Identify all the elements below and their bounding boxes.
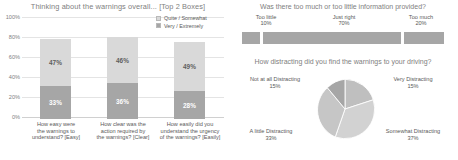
pie-value-text: 33%: [230, 135, 312, 142]
x-label-line2: action required by: [101, 128, 145, 134]
bar-segment-very-extremely: 36%: [107, 83, 138, 119]
bar-urgency-understanding[interactable]: 49% 28%: [174, 42, 205, 119]
pie-graphic: [314, 78, 376, 140]
x-label-line1: How easily did you: [167, 121, 214, 127]
y-tick-0: 0%: [0, 114, 20, 120]
stacked-bar-track: [242, 32, 444, 44]
segment-label-just-right: Just right 70%: [306, 14, 382, 27]
segment-label-too-much: Too much 20%: [390, 14, 452, 27]
slide-canvas: Thinking about the warnings overall... […: [0, 0, 458, 160]
pie-value-text: 37%: [370, 135, 456, 142]
pie-value-text: 15%: [234, 83, 316, 90]
pie-label-somewhat-distracting: Somewhat Distracting 37%: [370, 128, 456, 141]
information-amount-chart: Was there too much or too little informa…: [228, 0, 458, 56]
distraction-pie-chart: How distracting did you find the warning…: [228, 56, 458, 160]
x-label-urgency-understanding: How easily did you understand the urgenc…: [154, 121, 226, 141]
segment-label-too-little: Too little 10%: [236, 14, 296, 27]
y-tick-60: 60%: [0, 54, 20, 60]
y-tick-20: 20%: [0, 94, 20, 100]
bar-value-bottom: 33%: [49, 99, 62, 106]
pie-label-a-little-distracting: A little Distracting 33%: [230, 128, 312, 141]
page-title: Thinking about the warnings overall... […: [18, 2, 218, 11]
pie-value-text: 15%: [374, 83, 452, 90]
legend-label: Very / Extremely: [164, 23, 203, 29]
pie-label-text: Somewhat Distracting: [370, 128, 456, 135]
x-label-line3: of the warnings? [Easily]: [160, 134, 221, 140]
y-tick-80: 80%: [0, 34, 20, 40]
bar-segment-too-much[interactable]: [404, 32, 444, 44]
bar-action-clarity[interactable]: 46% 36%: [107, 37, 138, 119]
legend: Quite / Somewhat Very / Extremely: [156, 15, 228, 30]
x-axis-category-labels: How easy were the warnings to understand…: [22, 121, 224, 157]
x-label-line2: understand the urgency: [161, 128, 220, 134]
pie-label-text: Not at all Distracting: [234, 76, 316, 83]
bar-segment-very-extremely: 28%: [174, 91, 205, 119]
bar-segment-too-little[interactable]: [242, 32, 260, 44]
bar-segment-quite-somewhat: 46%: [107, 37, 138, 83]
stacked-column-chart: Thinking about the warnings overall... […: [0, 0, 228, 160]
x-label-easy-to-understand: How easy were the warnings to understand…: [22, 121, 90, 141]
bar-value-bottom: 28%: [183, 102, 196, 109]
legend-item-quite-somewhat[interactable]: Quite / Somewhat: [156, 15, 228, 21]
distraction-chart-title: How distracting did you find the warning…: [228, 58, 458, 65]
pie-label-text: A little Distracting: [230, 128, 312, 135]
bar-segment-very-extremely: 33%: [40, 86, 71, 119]
x-label-line3: the warnings? [Clear]: [97, 134, 150, 140]
x-label-action-clarity: How clear was the action required by the…: [89, 121, 157, 141]
legend-item-very-extremely[interactable]: Very / Extremely: [156, 23, 228, 29]
plot-area: 47% 33% 46% 36% 49% 28%: [22, 17, 224, 119]
pie-svg: [314, 78, 376, 140]
bar-easy-to-understand[interactable]: 47% 33%: [40, 39, 71, 119]
segment-label-text: Too much: [409, 14, 433, 20]
segment-value-text: 70%: [306, 20, 382, 26]
x-label-line2: the warnings to: [37, 128, 75, 134]
bar-value-bottom: 36%: [116, 98, 129, 105]
legend-swatch-icon: [156, 23, 161, 28]
y-axis-tick-labels: 100% 80% 60% 40% 20% 0%: [0, 14, 20, 118]
bar-segment-just-right[interactable]: [263, 32, 401, 44]
x-label-line1: How easy were: [37, 121, 75, 127]
x-label-line1: How clear was the: [100, 121, 146, 127]
segment-label-text: Just right: [333, 14, 356, 20]
bar-value-top: 46%: [116, 57, 129, 64]
segment-label-text: Too little: [256, 14, 277, 20]
pie-label-very-distracting: Very Distracting 15%: [374, 76, 452, 89]
x-label-line3: understand? [Easy]: [32, 134, 80, 140]
y-tick-40: 40%: [0, 74, 20, 80]
segment-value-text: 20%: [390, 20, 452, 26]
legend-label: Quite / Somewhat: [164, 15, 207, 21]
y-tick-100: 100%: [0, 14, 20, 20]
pie-label-not-at-all-distracting: Not at all Distracting 15%: [234, 76, 316, 89]
bar-value-top: 47%: [49, 59, 62, 66]
information-amount-title: Was there too much or too little informa…: [228, 3, 458, 10]
pie-label-text: Very Distracting: [374, 76, 452, 83]
bar-segment-quite-somewhat: 47%: [40, 39, 71, 86]
bar-segment-quite-somewhat: 49%: [174, 42, 205, 91]
bar-value-top: 49%: [183, 63, 196, 70]
segment-value-text: 10%: [236, 20, 296, 26]
legend-swatch-icon: [156, 16, 161, 21]
